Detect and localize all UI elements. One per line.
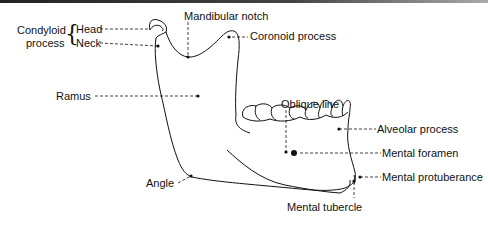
label-neck: Neck <box>76 37 101 50</box>
label-condyloid-line2: process <box>26 37 65 50</box>
label-mental-protuberance: Mental protuberance <box>382 171 483 184</box>
label-oblique-line: Oblique line <box>281 98 339 111</box>
label-alveolar-process: Alveolar process <box>377 123 458 136</box>
label-mandibular-notch: Mandibular notch <box>184 10 268 23</box>
oblique-line-path <box>227 150 350 193</box>
label-coronoid-process: Coronoid process <box>250 30 336 43</box>
label-mental-tubercle: Mental tubercle <box>287 201 362 214</box>
leader-neck <box>100 43 158 46</box>
leader-angle <box>178 176 191 183</box>
label-condyloid-line1: Condyloid <box>17 24 66 37</box>
label-ramus: Ramus <box>56 90 91 103</box>
label-mental-foramen: Mental foramen <box>382 147 458 160</box>
label-angle: Angle <box>146 177 174 190</box>
label-head: Head <box>76 23 102 36</box>
